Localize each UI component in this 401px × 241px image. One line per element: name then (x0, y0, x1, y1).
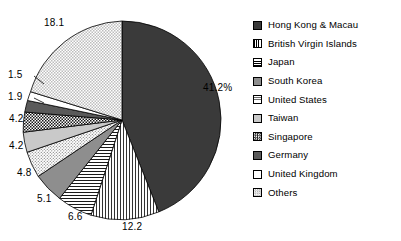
legend-label-singapore: Singapore (268, 132, 313, 142)
legend-item-united-states[interactable]: United States (253, 90, 401, 109)
legend-item-hong-kong-macau[interactable]: Hong Kong & Macau (253, 16, 401, 35)
legend-item-germany[interactable]: Germany (253, 146, 401, 165)
legend-item-taiwan[interactable]: Taiwan (253, 109, 401, 128)
value-label-united-kingdom: 1.5 (8, 70, 23, 80)
legend-item-united-kingdom[interactable]: United Kingdom (253, 165, 401, 184)
value-label-united-states: 4.8 (17, 168, 32, 178)
legend-label-british-virgin-islands: British Virgin Islands (268, 39, 357, 49)
chart-legend: Hong Kong & Macau British Virgin Islands… (253, 16, 401, 202)
value-label-others: 18.1 (44, 18, 64, 28)
value-label-south-korea: 5.1 (37, 194, 52, 204)
legend-label-taiwan: Taiwan (268, 113, 298, 123)
pie-chart-svg (0, 0, 240, 241)
legend-item-south-korea[interactable]: South Korea (253, 72, 401, 91)
legend-swatch-icon-others (253, 188, 262, 197)
pie-chart-plot-area: 18.1 1.5 1.9 4.2 4.2 4.8 5.1 6.6 12.2 41… (0, 0, 240, 241)
legend-swatch-icon-hong-kong-macau (253, 21, 262, 30)
legend-item-singapore[interactable]: Singapore (253, 128, 401, 147)
value-label-taiwan: 4.2 (9, 141, 24, 151)
legend-label-japan: Japan (268, 57, 295, 67)
value-label-hong-kong-macau: 41.2% (203, 83, 232, 93)
legend-label-united-states: United States (268, 95, 327, 105)
value-label-japan: 6.6 (68, 212, 83, 222)
pie-chart: 18.1 1.5 1.9 4.2 4.2 4.8 5.1 6.6 12.2 41… (0, 0, 401, 241)
legend-item-japan[interactable]: Japan (253, 53, 401, 72)
legend-item-british-virgin-islands[interactable]: British Virgin Islands (253, 35, 401, 54)
legend-swatch-icon-taiwan (253, 114, 262, 123)
legend-label-germany: Germany (268, 150, 308, 160)
legend-label-united-kingdom: United Kingdom (268, 169, 338, 179)
legend-swatch-icon-united-states (253, 95, 262, 104)
value-label-british-virgin-islands: 12.2 (122, 222, 142, 232)
legend-swatch-icon-british-virgin-islands (253, 39, 262, 48)
legend-swatch-icon-united-kingdom (253, 170, 262, 179)
legend-label-south-korea: South Korea (268, 76, 322, 86)
value-label-singapore: 4.2 (9, 114, 24, 124)
legend-swatch-icon-south-korea (253, 77, 262, 86)
legend-swatch-icon-germany (253, 151, 262, 160)
legend-label-others: Others (268, 188, 297, 198)
legend-swatch-icon-singapore (253, 132, 262, 141)
value-label-germany: 1.9 (8, 92, 23, 102)
legend-item-others[interactable]: Others (253, 183, 401, 202)
legend-label-hong-kong-macau: Hong Kong & Macau (268, 20, 358, 30)
legend-swatch-icon-japan (253, 58, 262, 67)
